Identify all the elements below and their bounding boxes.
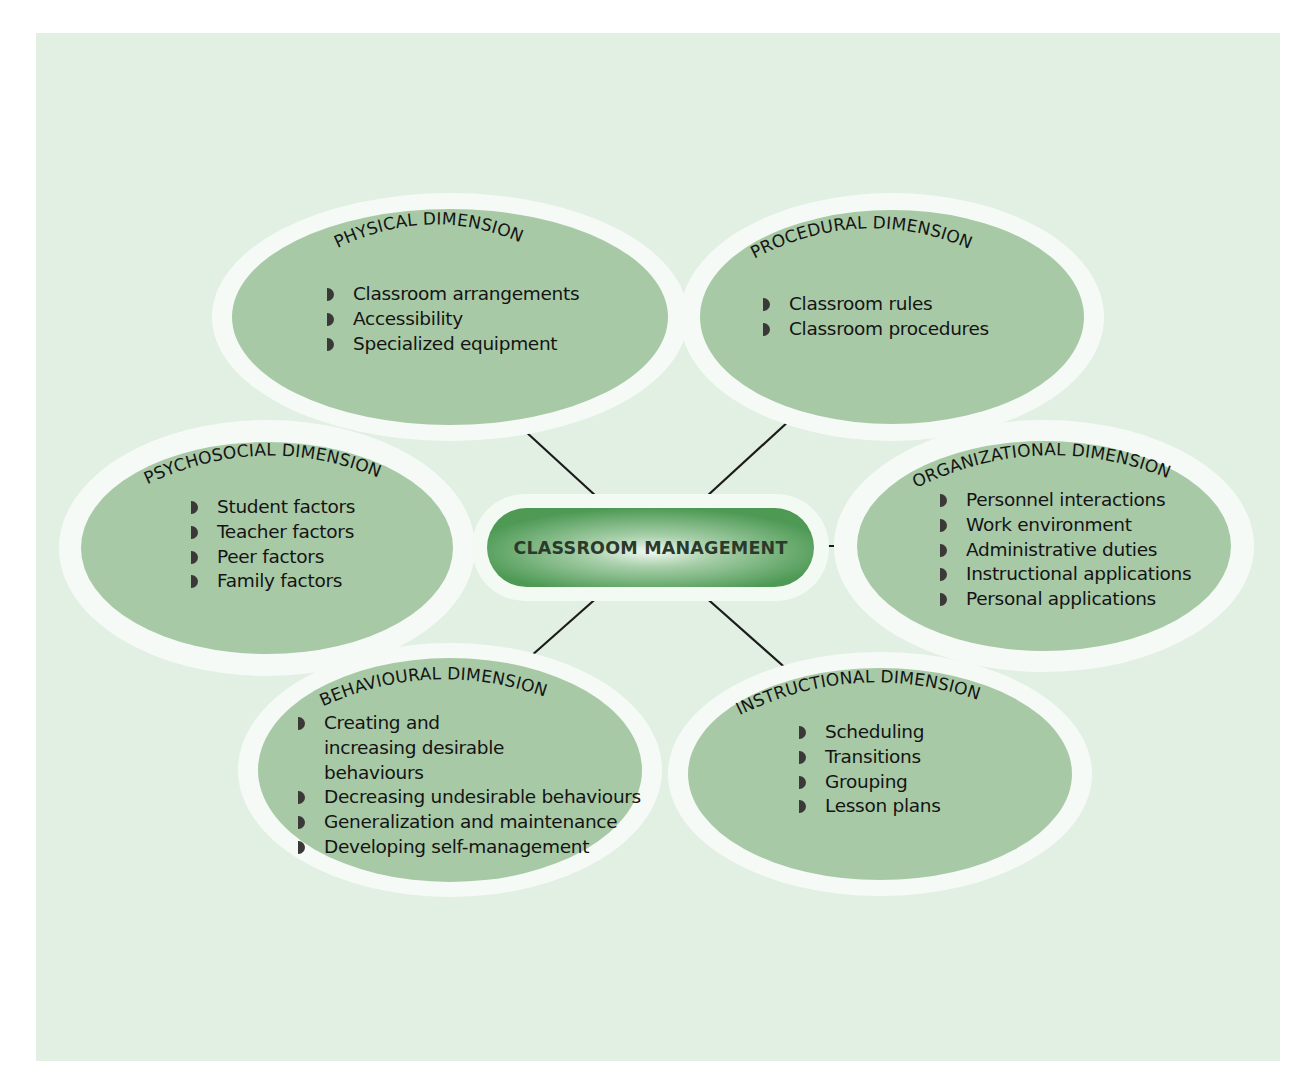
list-item: Transitions: [799, 745, 941, 770]
bullet-icon: [799, 776, 806, 789]
bullet-icon: [191, 575, 198, 588]
list-item: Family factors: [191, 569, 355, 594]
bullet-icon: [940, 519, 947, 532]
bullet-icon: [799, 751, 806, 764]
procedural-items: Classroom rules Classroom procedures: [763, 292, 989, 342]
psychosocial-items: Student factors Teacher factors Peer fac…: [191, 495, 355, 594]
list-item: Work environment: [940, 513, 1191, 538]
bullet-icon: [763, 298, 770, 311]
bullet-icon: [191, 551, 198, 564]
list-item: Instructional applications: [940, 562, 1191, 587]
bullet-icon: [298, 791, 305, 804]
list-item: Administrative duties: [940, 538, 1191, 563]
list-item: Classroom procedures: [763, 317, 989, 342]
organizational-items: Personnel interactions Work environment …: [940, 488, 1191, 612]
list-item: Decreasing undesirable behaviours: [298, 785, 628, 810]
physical-items: Classroom arrangements Accessibility Spe…: [327, 282, 579, 356]
list-item: Generalization and maintenance: [298, 810, 628, 835]
bullet-icon: [327, 338, 334, 351]
list-item: Classroom arrangements: [327, 282, 579, 307]
bullet-icon: [298, 816, 305, 829]
list-item: Creating and increasing desirable behavi…: [298, 711, 524, 785]
list-item: Personnel interactions: [940, 488, 1191, 513]
behavioural-items: Creating and increasing desirable behavi…: [298, 711, 628, 860]
bullet-icon: [327, 288, 334, 301]
list-item: Lesson plans: [799, 794, 941, 819]
bullet-icon: [940, 544, 947, 557]
list-item: Classroom rules: [763, 292, 989, 317]
bullet-icon: [298, 717, 305, 730]
bullet-icon: [191, 526, 198, 539]
bullet-icon: [799, 800, 806, 813]
list-item: Personal applications: [940, 587, 1191, 612]
bullet-icon: [940, 494, 947, 507]
bullet-icon: [763, 323, 770, 336]
list-item: Accessibility: [327, 307, 579, 332]
bullet-icon: [940, 593, 947, 606]
bullet-icon: [191, 501, 198, 514]
list-item: Peer factors: [191, 545, 355, 570]
bullet-icon: [799, 726, 806, 739]
bullet-icon: [298, 841, 305, 854]
bullet-icon: [940, 568, 947, 581]
list-item: Scheduling: [799, 720, 941, 745]
list-item: Specialized equipment: [327, 332, 579, 357]
bullet-icon: [327, 313, 334, 326]
instructional-items: Scheduling Transitions Grouping Lesson p…: [799, 720, 941, 819]
list-item: Grouping: [799, 770, 941, 795]
center-label: CLASSROOM MANAGEMENT: [487, 508, 814, 587]
list-item: Developing self-management: [298, 835, 628, 860]
list-item: Student factors: [191, 495, 355, 520]
list-item: Teacher factors: [191, 520, 355, 545]
